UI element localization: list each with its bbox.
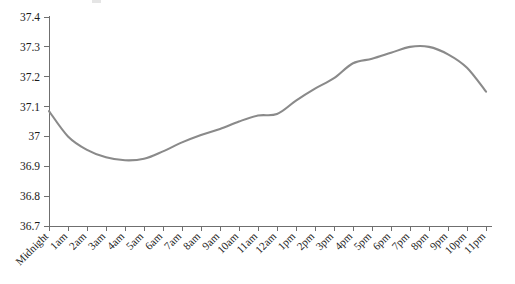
y-axis-tick-label: 36.9 (20, 160, 40, 172)
x-axis-tick-label: 3pm (313, 230, 336, 253)
x-axis-tick-label: 4pm (332, 230, 355, 253)
y-axis-tick-label: 36.7 (20, 220, 40, 232)
x-axis-label-group: Midnight1am2am3am4am5am6am7am8am9am10am1… (13, 230, 488, 268)
x-axis-tick-label: 2pm (294, 230, 317, 253)
y-axis-label-group: 36.736.836.93737.137.237.337.4 (20, 11, 40, 232)
x-axis-tick-label: 8pm (408, 230, 431, 253)
x-axis-tick-label: 7pm (389, 230, 412, 253)
y-axis-tick-label: 37.4 (20, 11, 40, 23)
y-axis-tick-label: 37.1 (20, 101, 40, 113)
x-axis-tick-label: 7am (162, 230, 184, 252)
temperature-line-chart: 36.736.836.93737.137.237.337.4 Midnight1… (0, 0, 515, 284)
x-axis-tick-label: 1am (48, 230, 70, 252)
x-axis-tick-label: 6pm (370, 230, 393, 253)
y-axis-tick-label: 37.3 (20, 41, 40, 53)
x-axis-tick-label: 5am (124, 230, 146, 252)
x-axis-tick-label: 1pm (275, 230, 298, 253)
data-series-line (49, 46, 486, 160)
y-axis-tick-group (44, 17, 49, 226)
x-axis-tick-label: 2am (67, 230, 89, 252)
y-axis-tick-label: 37.2 (20, 71, 40, 83)
x-axis-tick-label: Midnight (13, 230, 50, 267)
chart-canvas: 36.736.836.93737.137.237.337.4 Midnight1… (0, 0, 515, 284)
x-axis-tick-label: 4am (105, 230, 127, 252)
y-axis-tick-label: 36.8 (20, 190, 40, 202)
x-axis-tick-label: 6am (143, 230, 165, 252)
x-axis-tick-label: 11pm (461, 230, 487, 256)
x-axis-tick-label: 8am (181, 230, 203, 252)
x-axis-tick-label: 5pm (351, 230, 374, 253)
x-axis-tick-label: 3am (86, 230, 108, 252)
y-axis-tick-label: 37 (29, 130, 41, 142)
